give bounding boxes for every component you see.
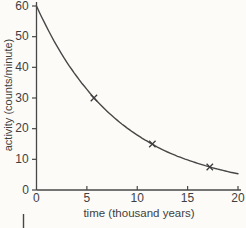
x-tick-label: 10 bbox=[124, 192, 150, 205]
decay-curve bbox=[37, 6, 239, 174]
x-tick-label: 0 bbox=[24, 192, 50, 205]
y-axis-title: activity (counts/minute) bbox=[1, 30, 15, 160]
radioactive-decay-chart: 0102030405060 05101520 activity (counts/… bbox=[0, 0, 246, 228]
y-tick-label: 60 bbox=[2, 0, 29, 13]
x-tick-label: 5 bbox=[74, 192, 100, 205]
x-tick-label: 20 bbox=[225, 192, 246, 205]
data-point-x-marker bbox=[149, 141, 155, 147]
x-axis-title: time (thousand years) bbox=[69, 207, 209, 220]
data-point-x-marker bbox=[91, 95, 97, 101]
x-tick-label: 15 bbox=[175, 192, 201, 205]
